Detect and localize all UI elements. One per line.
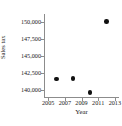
y-axis-tick-label: 147,500 [21, 36, 41, 42]
x-axis-tick-label: 2005 [42, 100, 54, 106]
y-axis-tick-label: 140,000 [21, 87, 41, 93]
data-point [71, 76, 76, 81]
y-axis-tick [41, 56, 44, 57]
x-axis-tick-label: 2013 [109, 100, 121, 106]
x-axis-tick-label: 2011 [92, 100, 104, 106]
x-axis-title: Year [44, 109, 119, 116]
x-axis-tick-label: 2007 [59, 100, 71, 106]
x-axis-tick-label: 2009 [75, 100, 87, 106]
y-axis-tick [41, 90, 44, 91]
y-axis-line [44, 14, 45, 98]
data-point [88, 90, 93, 95]
y-axis-tick-label: 145,000 [21, 53, 41, 59]
scatter-chart: 150,000147,500145,000142,500140,000 2005… [0, 0, 122, 126]
data-point [104, 19, 109, 24]
y-axis-tick [41, 39, 44, 40]
y-axis-tick [41, 73, 44, 74]
y-axis-tick [41, 22, 44, 23]
y-axis-tick-label: 142,500 [21, 70, 41, 76]
y-axis-title: Sales tax [0, 23, 6, 71]
y-axis-tick-label: 150,000 [21, 19, 41, 25]
data-point [54, 77, 59, 82]
